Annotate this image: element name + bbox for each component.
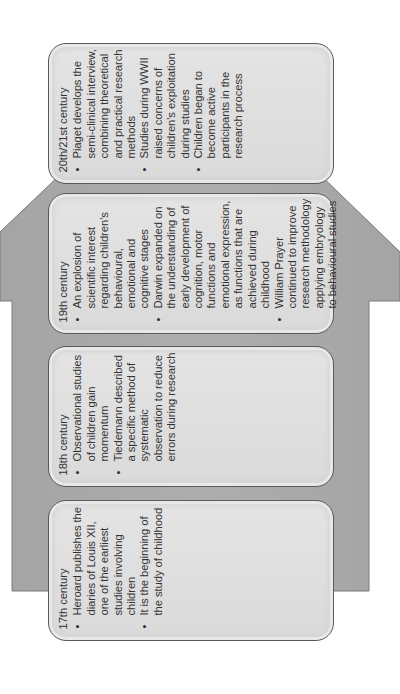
stage-box-18th-century: 18th century Observational studies of ch… (48, 346, 334, 487)
bullet-item: Studies during WWII raised concerns of c… (137, 48, 191, 172)
bullet-item: William Prayer continued to improve rese… (272, 198, 339, 322)
stage-title: 18th century (56, 351, 69, 475)
stage-title: 20th/21st century (56, 48, 69, 172)
stage-box-20th-21st-century: 20th/21st century Piaget develops the se… (48, 43, 334, 184)
stage-bullets: Piaget develops the semi-clinical interv… (70, 48, 244, 172)
stage-title: 19th century (56, 198, 69, 322)
bullet-item: It is the beginning of the study of chil… (137, 505, 164, 629)
stage-title: 17th century (56, 505, 69, 629)
stage-bullets: Heroard publishes the diaries of Louis X… (70, 505, 164, 629)
bullet-item: Heroard publishes the diaries of Louis X… (70, 505, 137, 629)
stage-box-17th-century: 17th century Heroard publishes the diari… (48, 500, 334, 641)
bullet-item: Darwin expanded on the understanding of … (151, 198, 272, 322)
bullet-item: An explosion of scientific interest rega… (70, 198, 150, 322)
stage-bullets: An explosion of scientific interest rega… (70, 198, 338, 322)
bullet-item: Observational studies of children gain m… (70, 351, 110, 475)
bullet-item: Tiedemann described a specific method of… (111, 351, 178, 475)
stage-bullets: Observational studies of children gain m… (70, 351, 177, 475)
stage-box-19th-century: 19th century An explosion of scientific … (48, 193, 334, 334)
bullet-item: Piaget develops the semi-clinical interv… (70, 48, 137, 172)
bullet-item: Children began to become active particip… (191, 48, 245, 172)
